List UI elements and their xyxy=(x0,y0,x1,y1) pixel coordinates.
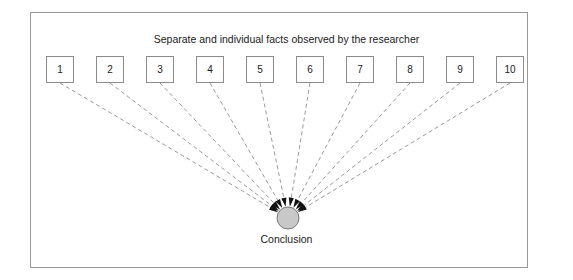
fact-box-4: 4 xyxy=(196,56,224,83)
fact-box-label: 8 xyxy=(407,65,413,75)
conclusion-label: Conclusion xyxy=(0,233,573,245)
fact-box-label: 6 xyxy=(307,65,313,75)
fact-box-label: 1 xyxy=(57,65,63,75)
fact-box-6: 6 xyxy=(296,56,324,83)
fact-box-3: 3 xyxy=(146,56,174,83)
figure-frame xyxy=(30,12,528,268)
fact-box-10: 10 xyxy=(496,56,524,83)
figure-title: Separate and individual facts observed b… xyxy=(0,33,573,45)
fact-box-label: 10 xyxy=(504,65,515,75)
fact-box-label: 7 xyxy=(357,65,363,75)
fact-box-9: 9 xyxy=(446,56,474,83)
fact-box-label: 9 xyxy=(457,65,463,75)
fact-box-label: 3 xyxy=(157,65,163,75)
fact-box-1: 1 xyxy=(46,56,74,83)
fact-box-7: 7 xyxy=(346,56,374,83)
figure-container: Separate and individual facts observed b… xyxy=(0,0,573,280)
fact-box-5: 5 xyxy=(246,56,274,83)
fact-box-label: 5 xyxy=(257,65,263,75)
fact-box-2: 2 xyxy=(96,56,124,83)
fact-box-label: 4 xyxy=(207,65,213,75)
fact-box-8: 8 xyxy=(396,56,424,83)
fact-box-label: 2 xyxy=(107,65,113,75)
